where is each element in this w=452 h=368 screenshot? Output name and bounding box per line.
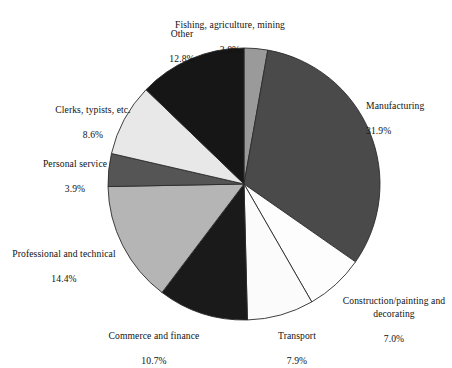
pie-label-construction-painting-decorating: Construction/painting and decorating 7.0… — [336, 283, 452, 357]
pie-label-value: 3.9% — [22, 183, 128, 195]
pie-label-value: 7.9% — [252, 355, 342, 367]
pie-label-name: Commerce and finance — [86, 330, 222, 342]
pie-label-other: Other 12.8% — [148, 16, 216, 78]
pie-label-name: Transport — [252, 330, 342, 342]
pie-label-value: 8.6% — [31, 129, 155, 141]
pie-slice-group — [108, 48, 380, 320]
pie-label-clerks-typists-etc: Clerks, typists, etc. 8.6% — [31, 92, 155, 154]
pie-label-transport: Transport 7.9% — [252, 318, 342, 368]
pie-label-value: 7.0% — [336, 333, 452, 345]
pie-label-name: Personal service — [22, 158, 128, 170]
pie-label-name: Construction/painting and decorating — [336, 295, 452, 320]
pie-label-personal-service: Personal service 3.9% — [22, 146, 128, 208]
pie-label-value: 12.8% — [148, 53, 216, 65]
pie-label-commerce-and-finance: Commerce and finance 10.7% — [86, 318, 222, 368]
pie-label-value: 14.4% — [2, 273, 126, 285]
pie-label-name: Other — [148, 28, 216, 40]
pie-label-manufacturing: Manufacturing 31.9% — [366, 88, 452, 150]
pie-label-value: 31.9% — [366, 125, 452, 137]
pie-label-value: 10.7% — [86, 355, 222, 367]
pie-label-name: Professional and technical — [2, 248, 126, 260]
pie-label-name: Manufacturing — [366, 100, 452, 112]
pie-label-name: Clerks, typists, etc. — [31, 104, 155, 116]
pie-label-professional-and-technical: Professional and technical 14.4% — [2, 236, 126, 298]
